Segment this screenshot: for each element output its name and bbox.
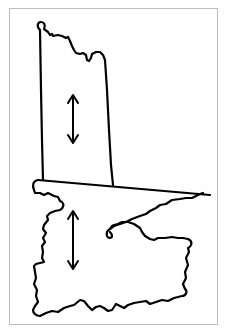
divider-line: [38, 180, 210, 195]
upper-shape: [38, 22, 113, 185]
lower-shape: [33, 180, 203, 316]
diagram-canvas: [0, 0, 226, 331]
upper-double-arrow-icon: [68, 95, 78, 143]
lower-double-arrow-icon: [68, 211, 78, 269]
